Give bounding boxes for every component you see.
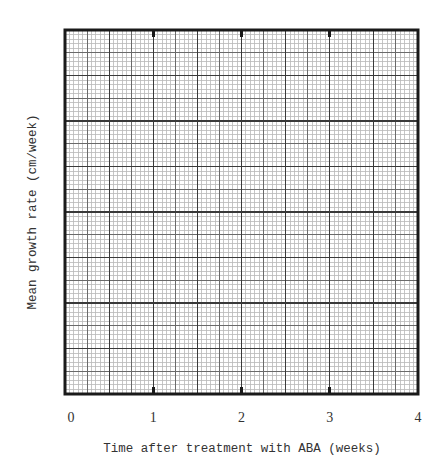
x-tick-label: 2 [238,410,245,426]
graph-paper-plot-area [0,0,444,469]
x-tick-label: 1 [150,410,157,426]
x-tick-label: 0 [68,410,75,426]
y-axis-label: Mean growth rate (cm/week) [26,114,40,309]
x-tick-label: 4 [415,410,422,426]
x-axis-label: Time after treatment with ABA (weeks) [103,442,381,456]
x-tick-label: 3 [326,410,333,426]
